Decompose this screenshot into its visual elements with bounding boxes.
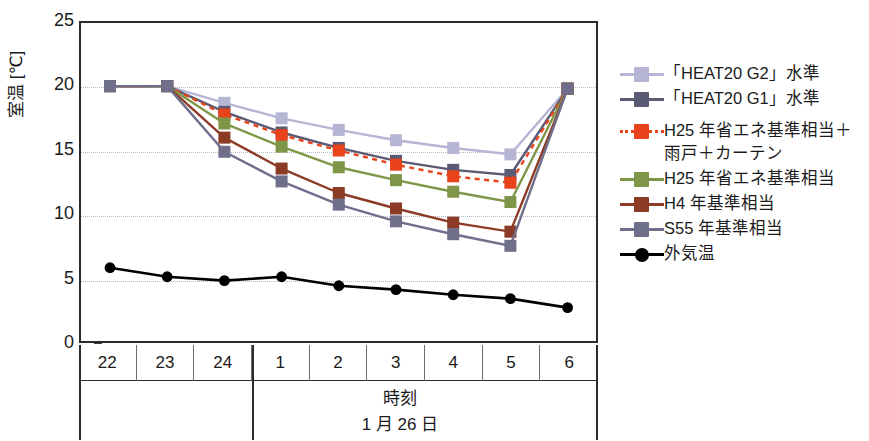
legend-label: H25 年省エネ基準相当＋ 雨戸＋カーテン: [664, 119, 852, 165]
data-point: [504, 196, 516, 208]
legend-label: 外気温: [664, 242, 715, 264]
x-tick-label: 2: [310, 345, 368, 381]
data-point: [562, 302, 573, 313]
data-point: [504, 148, 516, 160]
data-point: [333, 187, 345, 199]
x-tick-label: 4: [425, 345, 483, 381]
x-tick-label: 3: [367, 345, 425, 381]
series-layer: [81, 23, 600, 345]
legend-square-marker-icon: [634, 92, 649, 107]
legend-item[interactable]: H25 年省エネ基準相当: [620, 167, 869, 190]
data-point: [333, 161, 345, 173]
legend-label: H25 年省エネ基準相当: [664, 167, 835, 189]
data-point: [505, 293, 516, 304]
legend: 「HEAT20 G2」水準「HEAT20 G1」水準H25 年省エネ基準相当＋ …: [620, 62, 869, 267]
data-point: [161, 80, 173, 92]
data-point: [333, 145, 345, 157]
x-axis-date: 1 月 26 日: [300, 410, 500, 435]
y-axis-ticks: 0510152025: [22, 0, 74, 441]
x-tick-label: 24: [194, 345, 252, 381]
data-point: [333, 199, 345, 211]
y-tick-label: 0: [28, 333, 74, 351]
x-tick-label: 6: [540, 345, 598, 381]
legend-label: H4 年基準相当: [664, 192, 775, 214]
y-tick-label: 25: [28, 11, 74, 29]
plot-area: [79, 21, 598, 343]
data-point: [447, 228, 459, 240]
y-tick-label: 5: [28, 269, 74, 287]
x-tick-label: 5: [483, 345, 541, 381]
data-point: [276, 175, 288, 187]
legend-item[interactable]: 「HEAT20 G2」水準: [620, 62, 869, 85]
data-point: [504, 177, 516, 189]
data-point: [218, 117, 230, 129]
legend-swatch-icon: [620, 193, 664, 215]
data-point: [276, 163, 288, 175]
data-point: [219, 275, 230, 286]
data-point: [276, 271, 287, 282]
y-tick-label: 10: [28, 204, 74, 222]
data-point: [447, 170, 459, 182]
data-point: [104, 80, 116, 92]
data-point: [276, 112, 288, 124]
legend-swatch-icon: [620, 120, 664, 142]
data-point: [390, 174, 402, 186]
data-point: [447, 186, 459, 198]
data-point: [447, 142, 459, 154]
data-point: [504, 240, 516, 252]
x-tick-label: 22: [79, 345, 137, 381]
data-point: [218, 146, 230, 158]
legend-label: 「HEAT20 G2」水準: [664, 62, 820, 84]
y-tick-label: 15: [28, 140, 74, 158]
legend-item[interactable]: 外気温: [620, 242, 869, 265]
data-point: [390, 215, 402, 227]
chart-figure: 室温 [℃] 0510152025 222324123456 時刻 1 月 26…: [0, 0, 869, 441]
data-point: [333, 124, 345, 136]
x-tick-label: 23: [137, 345, 195, 381]
legend-circle-marker-icon: [635, 248, 649, 262]
legend-square-marker-icon: [634, 67, 649, 82]
y-tick-label: 20: [28, 75, 74, 93]
legend-item[interactable]: H4 年基準相当: [620, 192, 869, 215]
data-point: [276, 129, 288, 141]
x-axis-title: 時刻: [300, 384, 500, 409]
legend-item[interactable]: 「HEAT20 G1」水準: [620, 87, 869, 110]
series-4: [104, 80, 574, 238]
legend-swatch-icon: [620, 243, 664, 265]
data-point: [448, 289, 459, 300]
data-point: [105, 262, 116, 273]
x-tick-label: 1: [252, 345, 310, 381]
legend-square-marker-icon: [634, 197, 649, 212]
legend-label: S55 年基準相当: [664, 217, 783, 239]
legend-item[interactable]: S55 年基準相当: [620, 217, 869, 240]
legend-label: 「HEAT20 G1」水準: [664, 87, 820, 109]
legend-swatch-icon: [620, 168, 664, 190]
legend-square-marker-icon: [634, 124, 649, 139]
legend-swatch-icon: [620, 218, 664, 240]
data-point: [390, 134, 402, 146]
legend-swatch-icon: [620, 63, 664, 85]
data-point: [218, 132, 230, 144]
legend-square-marker-icon: [634, 172, 649, 187]
data-point: [390, 202, 402, 214]
legend-item[interactable]: H25 年省エネ基準相当＋ 雨戸＋カーテン: [620, 119, 869, 165]
data-point: [391, 284, 402, 295]
legend-square-marker-icon: [634, 222, 649, 237]
data-point: [162, 271, 173, 282]
y-axis-label: 室温 [℃]: [2, 0, 24, 118]
data-point: [562, 83, 574, 95]
x-axis: 222324123456: [79, 345, 598, 381]
data-point: [390, 159, 402, 171]
data-point: [276, 141, 288, 153]
data-point: [447, 217, 459, 229]
data-point: [333, 280, 344, 291]
legend-swatch-icon: [620, 88, 664, 110]
series-6: [105, 262, 573, 313]
